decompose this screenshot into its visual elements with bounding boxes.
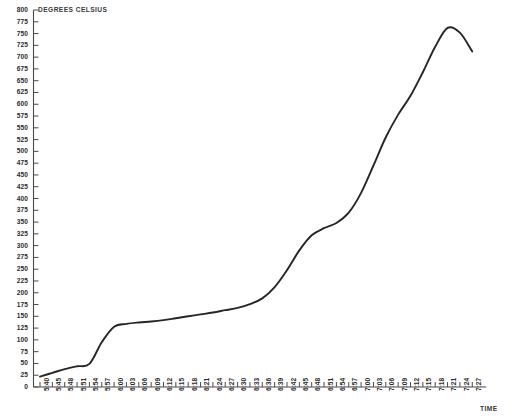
y-tick-label: 0 bbox=[2, 383, 28, 390]
y-tick-label: 775 bbox=[2, 18, 28, 25]
y-tick-label: 50 bbox=[2, 359, 28, 366]
temperature-curve bbox=[40, 27, 472, 377]
x-tick-label: 7:00 bbox=[364, 378, 371, 391]
chart-canvas: DEGREES CELSIUS TIME 0255075100125150175… bbox=[0, 0, 508, 418]
x-tick-label: 7:27 bbox=[475, 378, 482, 391]
y-tick-label: 425 bbox=[2, 183, 28, 190]
x-tick-label: 5:40 bbox=[43, 378, 50, 391]
y-tick-label: 475 bbox=[2, 159, 28, 166]
x-tick-label: 6:15 bbox=[178, 378, 185, 391]
y-tick-label: 25 bbox=[2, 371, 28, 378]
y-tick-label: 525 bbox=[2, 136, 28, 143]
y-tick-label: 750 bbox=[2, 30, 28, 37]
x-tick-label: 6:06 bbox=[141, 378, 148, 391]
x-tick-label: 6:39 bbox=[277, 378, 284, 391]
y-tick-label: 550 bbox=[2, 124, 28, 131]
x-tick-label: 5:51 bbox=[80, 378, 87, 391]
y-tick-label: 375 bbox=[2, 206, 28, 213]
x-tick-label: 7:09 bbox=[401, 378, 408, 391]
x-tick-label: 6:45 bbox=[302, 378, 309, 391]
x-tick-label: 6:24 bbox=[216, 378, 223, 391]
x-tick-label: 6:00 bbox=[117, 378, 124, 391]
x-tick-label: 7:12 bbox=[413, 378, 420, 391]
plot-area bbox=[0, 0, 508, 418]
y-tick-label: 575 bbox=[2, 112, 28, 119]
x-tick-label: 6:51 bbox=[327, 378, 334, 391]
axes-group bbox=[34, 10, 487, 387]
x-tick-label: 6:54 bbox=[339, 378, 346, 391]
y-tick-label: 450 bbox=[2, 171, 28, 178]
y-tick-label: 625 bbox=[2, 88, 28, 95]
x-tick-label: 6:09 bbox=[154, 378, 161, 391]
y-tick-label: 725 bbox=[2, 41, 28, 48]
x-tick-label: 7:15 bbox=[425, 378, 432, 391]
chart-svg bbox=[0, 0, 508, 418]
x-tick-label: 5:45 bbox=[55, 378, 62, 391]
x-tick-label: 5:54 bbox=[92, 378, 99, 391]
x-tick-label: 7:21 bbox=[450, 378, 457, 391]
x-tick-label: 6:42 bbox=[290, 378, 297, 391]
y-tick-label: 325 bbox=[2, 230, 28, 237]
x-tick-label: 5:48 bbox=[67, 378, 74, 391]
y-tick-label: 400 bbox=[2, 195, 28, 202]
x-tick-label: 7:03 bbox=[376, 378, 383, 391]
y-tick-label: 150 bbox=[2, 312, 28, 319]
y-tick-label: 700 bbox=[2, 53, 28, 60]
y-tick-label: 200 bbox=[2, 289, 28, 296]
y-tick-label: 500 bbox=[2, 147, 28, 154]
y-tick-label: 100 bbox=[2, 336, 28, 343]
x-tick-label: 6:36 bbox=[265, 378, 272, 391]
y-tick-label: 350 bbox=[2, 218, 28, 225]
x-tick-label: 7:06 bbox=[388, 378, 395, 391]
y-tick-label: 300 bbox=[2, 242, 28, 249]
y-tick-label: 600 bbox=[2, 100, 28, 107]
x-tick-label: 6:18 bbox=[191, 378, 198, 391]
x-tick-label: 7:18 bbox=[438, 378, 445, 391]
x-tick-label: 6:27 bbox=[228, 378, 235, 391]
y-tick-label: 675 bbox=[2, 65, 28, 72]
y-tick-label: 800 bbox=[2, 6, 28, 13]
x-tick-label: 6:21 bbox=[203, 378, 210, 391]
y-tick-label: 225 bbox=[2, 277, 28, 284]
x-tick-label: 6:48 bbox=[314, 378, 321, 391]
y-tick-label: 650 bbox=[2, 77, 28, 84]
x-tick-label: 6:12 bbox=[166, 378, 173, 391]
x-tick-label: 6:30 bbox=[240, 378, 247, 391]
y-tick-label: 175 bbox=[2, 301, 28, 308]
x-tick-label: 5:57 bbox=[104, 378, 111, 391]
x-tick-label: 6:03 bbox=[129, 378, 136, 391]
x-tick-label: 6:33 bbox=[253, 378, 260, 391]
y-tick-label: 75 bbox=[2, 348, 28, 355]
x-tick-label: 6:57 bbox=[351, 378, 358, 391]
y-tick-label: 125 bbox=[2, 324, 28, 331]
y-tick-label: 275 bbox=[2, 253, 28, 260]
x-tick-label: 7:24 bbox=[463, 378, 470, 391]
y-tick-label: 250 bbox=[2, 265, 28, 272]
